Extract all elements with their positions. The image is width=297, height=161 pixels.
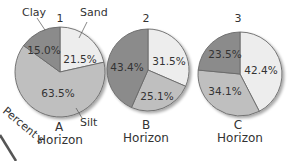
clay-label: Clay	[22, 6, 46, 19]
pie-1-silt-pct: 63.5%	[41, 87, 74, 99]
pie-2-sand-pct: 31.5%	[152, 55, 185, 67]
pie-3-silt-pct: 34.1%	[208, 85, 241, 97]
sand-label: Sand	[80, 6, 108, 19]
clay-leader-line	[37, 18, 45, 30]
pie-1-number: 1	[57, 12, 64, 25]
pie-3-sand-pct: 42.4%	[244, 64, 277, 76]
pie-1-horizon-letter: A	[55, 120, 64, 134]
silt-label: Silt	[80, 116, 98, 129]
pie-3-clay-pct: 23.5%	[208, 48, 241, 60]
pie-3-horizon-letter: C	[234, 118, 242, 132]
pie-2-number: 2	[143, 12, 150, 25]
pie-1-sand-pct: 21.5%	[63, 53, 96, 65]
pie-chart-a-horizon	[15, 27, 105, 117]
pie-1-clay-pct: 15.0%	[27, 44, 60, 56]
pie-2-horizon-letter: B	[142, 118, 150, 132]
pie-3-horizon-word: Horizon	[217, 131, 263, 145]
decorative-axis-bar	[0, 135, 16, 161]
pie-2-horizon-word: Horizon	[123, 131, 169, 145]
pie-2-silt-pct: 25.1%	[140, 90, 173, 102]
pie-2-clay-pct: 43.4%	[110, 61, 143, 73]
pie-3-number: 3	[235, 12, 242, 25]
soil-horizon-pie-charts: Clay Sand Silt 1 2 3 15.0% 21.5% 63.5% 4…	[0, 0, 297, 161]
